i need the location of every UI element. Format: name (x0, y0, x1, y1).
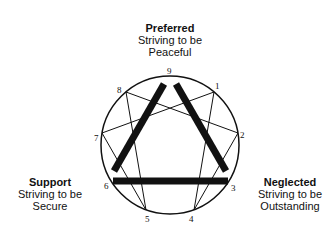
triangle-thick-lines (113, 84, 228, 181)
point-label-7: 7 (94, 133, 99, 143)
point-label-9: 9 (167, 66, 172, 76)
point-label-8: 8 (117, 85, 122, 95)
point-label-2: 2 (240, 130, 245, 140)
point-label-6: 6 (104, 181, 109, 191)
point-label-5: 5 (145, 214, 150, 224)
point-label-3: 3 (231, 183, 236, 193)
point-label-4: 4 (189, 214, 194, 224)
enneagram-figure: 9 1 2 3 4 5 6 7 8 (0, 0, 335, 233)
enneagram-circle (101, 76, 239, 214)
point-label-1: 1 (215, 81, 220, 91)
